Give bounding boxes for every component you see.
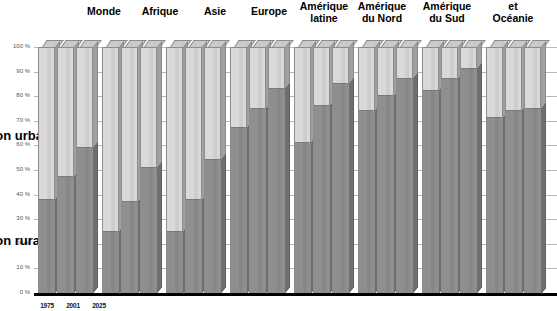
- segment-urban[interactable]: [359, 110, 374, 292]
- bar-front-face: [486, 47, 503, 293]
- shading-stripe: [66, 48, 71, 178]
- segment-urban[interactable]: [167, 231, 182, 293]
- shading-stripe: [514, 48, 519, 112]
- y-tick-label: 30 %: [16, 215, 34, 221]
- bar[interactable]: [268, 47, 285, 293]
- bar[interactable]: [249, 47, 266, 293]
- segment-rural[interactable]: [378, 48, 393, 97]
- x-tick-label: 1975: [34, 302, 60, 309]
- segment-rural[interactable]: [461, 48, 476, 70]
- bar-front-face: [505, 47, 522, 293]
- bar[interactable]: [377, 47, 394, 293]
- segment-rural[interactable]: [167, 48, 182, 233]
- bar[interactable]: [185, 47, 202, 293]
- shading-stripe: [130, 202, 135, 292]
- bar-top-face: [400, 40, 422, 47]
- segment-urban[interactable]: [506, 110, 521, 292]
- shading-stripe: [495, 118, 500, 292]
- segment-rural[interactable]: [103, 48, 118, 233]
- bar[interactable]: [441, 47, 458, 293]
- segment-urban[interactable]: [231, 127, 246, 292]
- segment-urban[interactable]: [269, 88, 284, 292]
- segment-urban[interactable]: [186, 199, 201, 292]
- y-tick-label: 40 %: [16, 191, 34, 197]
- segment-urban[interactable]: [333, 83, 348, 292]
- bar[interactable]: [57, 47, 74, 293]
- segment-rural[interactable]: [506, 48, 521, 112]
- segment-rural[interactable]: [487, 48, 502, 119]
- segment-urban[interactable]: [397, 78, 412, 292]
- bar[interactable]: [505, 47, 522, 293]
- bar[interactable]: [121, 47, 138, 293]
- bar[interactable]: [294, 47, 311, 293]
- bar[interactable]: [396, 47, 413, 293]
- segment-rural[interactable]: [58, 48, 73, 178]
- bar-front-face: [460, 47, 477, 293]
- segment-rural[interactable]: [77, 48, 92, 149]
- shading-stripe: [258, 109, 263, 293]
- bar[interactable]: [524, 47, 541, 293]
- bar[interactable]: [358, 47, 375, 293]
- segment-rural[interactable]: [231, 48, 246, 129]
- bar-front-face: [422, 47, 439, 293]
- segment-urban[interactable]: [461, 68, 476, 292]
- segment-rural[interactable]: [186, 48, 201, 201]
- shading-stripe: [85, 148, 90, 292]
- segment-urban[interactable]: [442, 78, 457, 292]
- bar[interactable]: [422, 47, 439, 293]
- bar[interactable]: [102, 47, 119, 293]
- bar[interactable]: [313, 47, 330, 293]
- segment-rural[interactable]: [141, 48, 156, 169]
- segment-rural[interactable]: [359, 48, 374, 112]
- segment-rural[interactable]: [295, 48, 310, 144]
- segment-rural[interactable]: [442, 48, 457, 80]
- segment-urban[interactable]: [58, 176, 73, 292]
- bar[interactable]: [166, 47, 183, 293]
- segment-urban[interactable]: [141, 167, 156, 292]
- bar-top-face: [272, 40, 294, 47]
- segment-rural[interactable]: [333, 48, 348, 85]
- bar[interactable]: [460, 47, 477, 293]
- shading-stripe: [322, 106, 327, 292]
- shading-stripe: [111, 232, 116, 293]
- shading-stripe: [303, 48, 308, 144]
- y-tick-label: 80 %: [16, 92, 34, 98]
- segment-rural[interactable]: [397, 48, 412, 80]
- bar[interactable]: [332, 47, 349, 293]
- shading-stripe: [386, 48, 391, 97]
- shading-stripe: [194, 48, 199, 201]
- bar[interactable]: [204, 47, 221, 293]
- segment-rural[interactable]: [314, 48, 329, 107]
- segment-urban[interactable]: [487, 117, 502, 292]
- segment-urban[interactable]: [77, 147, 92, 292]
- x-tick-label: 2025: [86, 302, 112, 309]
- shading-stripe: [303, 143, 308, 292]
- shading-stripe: [149, 168, 154, 292]
- segment-rural[interactable]: [39, 48, 54, 201]
- shading-stripe: [431, 91, 436, 292]
- segment-urban[interactable]: [250, 108, 265, 293]
- segment-rural[interactable]: [525, 48, 540, 110]
- segment-rural[interactable]: [205, 48, 220, 161]
- segment-rural[interactable]: [250, 48, 265, 110]
- bar-group: [102, 47, 157, 293]
- shading-stripe: [277, 89, 282, 292]
- segment-urban[interactable]: [39, 199, 54, 292]
- segment-urban[interactable]: [423, 90, 438, 292]
- bar[interactable]: [38, 47, 55, 293]
- segment-urban[interactable]: [122, 201, 137, 292]
- segment-rural[interactable]: [122, 48, 137, 203]
- segment-rural[interactable]: [423, 48, 438, 92]
- segment-urban[interactable]: [314, 105, 329, 292]
- segment-rural[interactable]: [269, 48, 284, 90]
- segment-urban[interactable]: [295, 142, 310, 292]
- bar[interactable]: [76, 47, 93, 293]
- segment-urban[interactable]: [205, 159, 220, 292]
- bar[interactable]: [140, 47, 157, 293]
- segment-urban[interactable]: [525, 108, 540, 293]
- segment-urban[interactable]: [378, 95, 393, 292]
- segment-urban[interactable]: [103, 231, 118, 293]
- bar[interactable]: [486, 47, 503, 293]
- bar[interactable]: [230, 47, 247, 293]
- shading-stripe: [450, 79, 455, 292]
